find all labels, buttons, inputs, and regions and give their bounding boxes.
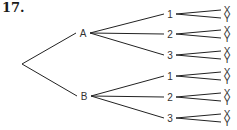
branch-line — [176, 14, 221, 18]
node-label-a1: 1 — [167, 9, 173, 20]
leaf-label-y: Y — [224, 54, 231, 65]
branch-line — [176, 55, 221, 59]
branch-line — [176, 118, 221, 122]
branch-line — [176, 114, 221, 118]
branch-line — [91, 76, 164, 96]
branch-line — [91, 96, 164, 118]
node-label-b: B — [81, 91, 88, 102]
branch-line — [22, 64, 77, 96]
branch-line — [176, 93, 221, 97]
branch-line — [90, 33, 164, 34]
branch-line — [176, 30, 221, 34]
node-label-a: A — [80, 28, 87, 39]
branch-line — [90, 14, 164, 33]
node-label-b2: 2 — [167, 92, 173, 103]
branch-line — [176, 76, 221, 80]
branch-line — [176, 10, 221, 14]
leaf-label-y: Y — [224, 96, 231, 107]
branch-line — [176, 97, 221, 101]
node-label-b3: 3 — [167, 113, 173, 124]
leaf-label-y: Y — [224, 13, 231, 24]
branch-line — [176, 72, 221, 76]
leaf-label-y: Y — [224, 117, 231, 128]
node-label-a2: 2 — [167, 29, 173, 40]
tree-diagram: A1XY2XY3XYB1XY2XY3XY — [0, 0, 237, 130]
node-label-a3: 3 — [167, 50, 173, 61]
branch-line — [22, 33, 76, 64]
node-label-b1: 1 — [167, 71, 173, 82]
branch-line — [91, 96, 164, 97]
leaf-label-y: Y — [224, 33, 231, 44]
branch-line — [176, 51, 221, 55]
branch-line — [90, 33, 164, 55]
branch-line — [176, 34, 221, 38]
leaf-label-y: Y — [224, 75, 231, 86]
